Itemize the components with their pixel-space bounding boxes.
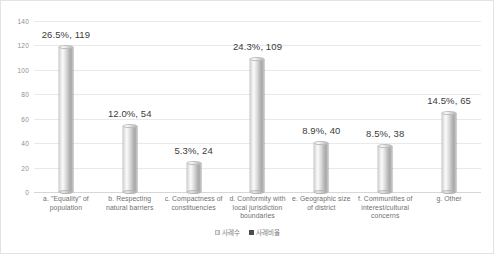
bar-cylinder-top-ellipse — [314, 141, 329, 145]
y-axis-tick-label: 100 — [18, 66, 29, 73]
x-axis-tick-label-line: population — [34, 204, 98, 213]
bar-cylinder[interactable] — [442, 113, 457, 192]
plot-area: 26.5%, 11912.0%, 545.3%, 2424.3%, 1098.9… — [34, 21, 481, 192]
bar-slot: 8.9%, 40 — [289, 21, 353, 192]
x-axis-tick-label-line: g. Other — [417, 195, 481, 204]
legend-swatch-icon — [249, 230, 254, 235]
x-axis-tick-label-line: a. "Equality" of — [34, 195, 98, 204]
x-axis-tick-label: g. Other — [417, 195, 481, 204]
y-axis: 140120100806040200 — [1, 21, 32, 192]
x-axis-tick-label-line: f. Communities of — [353, 195, 417, 204]
x-axis-tick-label: c. Compactness ofconstituencies — [162, 195, 226, 212]
legend-label: 사례비율 — [256, 227, 280, 237]
bar-cylinder-top-ellipse — [58, 45, 73, 49]
bar-data-label: 24.3%, 109 — [233, 41, 282, 52]
bar-cylinder[interactable] — [122, 126, 137, 192]
x-axis-tick-label-line: c. Compactness of — [162, 195, 226, 204]
bar-data-label: 26.5%, 119 — [42, 29, 90, 40]
bar-cylinder-top-ellipse — [378, 144, 393, 148]
bar-slot: 14.5%, 65 — [417, 21, 481, 192]
bar-data-label: 8.5%, 38 — [366, 128, 404, 139]
x-axis-tick-label-line: local jurisdiction — [226, 204, 290, 213]
bar-slot: 5.3%, 24 — [162, 21, 226, 192]
x-axis-tick-label: d. Conformity withlocal jurisdictionboun… — [226, 195, 290, 221]
bar-cylinder-bottom-ellipse — [442, 190, 457, 194]
bar-slot: 24.3%, 109 — [226, 21, 290, 192]
x-axis-tick-label-line: natural barriers — [98, 204, 162, 213]
x-axis-tick-label-line: boundaries — [226, 212, 290, 221]
legend-entry[interactable]: 사례수 — [215, 227, 240, 237]
bar-cylinder-bottom-ellipse — [250, 190, 265, 194]
x-axis-tick-label-line: constituencies — [162, 204, 226, 213]
y-axis-tick-label: 0 — [25, 189, 29, 196]
y-axis-tick-label: 140 — [18, 18, 29, 25]
y-axis-tick-label: 40 — [21, 140, 29, 147]
x-axis-tick-label: f. Communities ofinterest/culturalconcer… — [353, 195, 417, 221]
bar-slot: 8.5%, 38 — [353, 21, 417, 192]
bar-data-label: 5.3%, 24 — [174, 145, 212, 156]
bar-data-label: 14.5%, 65 — [427, 95, 471, 106]
y-axis-tick-label: 20 — [21, 164, 29, 171]
bar-cylinder-bottom-ellipse — [186, 190, 201, 194]
x-axis-tick-label: e. Geographic sizeof district — [289, 195, 353, 212]
bar-cylinder-bottom-ellipse — [314, 190, 329, 194]
bar-slot: 26.5%, 119 — [34, 21, 98, 192]
bar-series: 26.5%, 11912.0%, 545.3%, 2424.3%, 1098.9… — [34, 21, 481, 192]
chart-legend: 사례수사례비율 — [1, 227, 493, 237]
bar-data-label: 8.9%, 40 — [302, 125, 340, 136]
bar-cylinder-top-ellipse — [442, 111, 457, 115]
bar-cylinder[interactable] — [58, 47, 73, 192]
bar-cylinder-bottom-ellipse — [58, 190, 73, 194]
chart-container: 140120100806040200 26.5%, 11912.0%, 545.… — [0, 0, 494, 254]
x-axis-tick-label: b. Respectingnatural barriers — [98, 195, 162, 212]
legend-entry[interactable]: 사례비율 — [249, 227, 280, 237]
y-axis-tick-label: 120 — [18, 42, 29, 49]
bar-slot: 12.0%, 54 — [98, 21, 162, 192]
x-axis-tick-label-line: e. Geographic size — [289, 195, 353, 204]
legend-label: 사례수 — [222, 227, 240, 237]
bar-cylinder-top-ellipse — [186, 161, 201, 165]
bar-cylinder[interactable] — [378, 146, 393, 192]
bar-cylinder-bottom-ellipse — [122, 190, 137, 194]
bar-cylinder-top-ellipse — [250, 57, 265, 61]
bar-cylinder[interactable] — [186, 163, 201, 192]
bar-cylinder-top-ellipse — [122, 124, 137, 128]
x-axis-tick-label: a. "Equality" ofpopulation — [34, 195, 98, 212]
bar-cylinder[interactable] — [314, 143, 329, 192]
legend-swatch-icon — [215, 230, 220, 235]
y-axis-tick-label: 80 — [21, 91, 29, 98]
bar-data-label: 12.0%, 54 — [108, 108, 152, 119]
y-axis-tick-label: 60 — [21, 115, 29, 122]
x-axis-tick-label-line: d. Conformity with — [226, 195, 290, 204]
x-axis-tick-label-line: b. Respecting — [98, 195, 162, 204]
x-axis-tick-label-line: interest/cultural — [353, 204, 417, 213]
bar-cylinder[interactable] — [250, 59, 265, 192]
x-axis-tick-label-line: of district — [289, 204, 353, 213]
bar-cylinder-bottom-ellipse — [378, 190, 393, 194]
x-axis-tick-label-line: concerns — [353, 212, 417, 221]
